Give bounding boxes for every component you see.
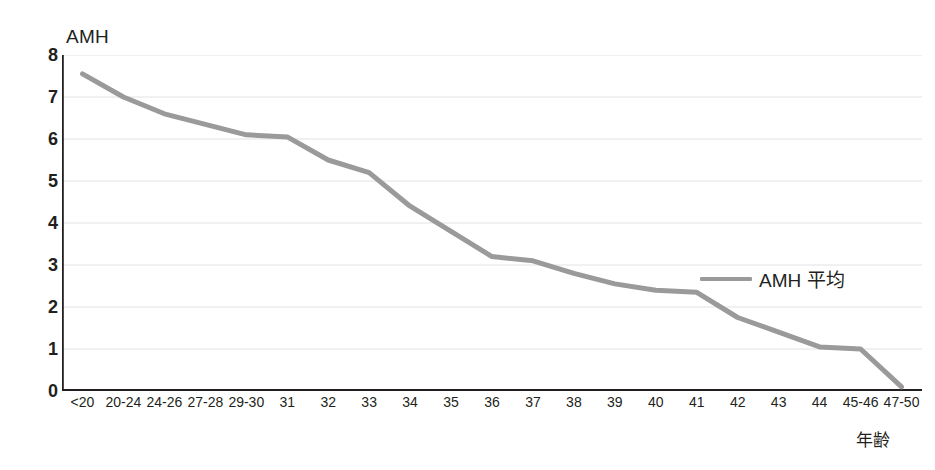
x-tick-label: 44 bbox=[812, 394, 828, 410]
y-tick-label: 7 bbox=[24, 87, 58, 108]
legend-line-swatch bbox=[700, 277, 752, 281]
x-tick-label: 40 bbox=[648, 394, 664, 410]
y-tick-label: 6 bbox=[24, 129, 58, 150]
x-tick-label: 38 bbox=[566, 394, 582, 410]
x-tick-label: 45-46 bbox=[843, 394, 879, 410]
x-tick-label: 32 bbox=[320, 394, 336, 410]
y-axis-tick-labels: 012345678 bbox=[18, 0, 58, 470]
x-tick-label: 42 bbox=[730, 394, 746, 410]
x-tick-label: <20 bbox=[71, 394, 95, 410]
series-line-0 bbox=[82, 74, 901, 387]
x-tick-label: 37 bbox=[525, 394, 541, 410]
x-tick-label: 34 bbox=[402, 394, 418, 410]
plot-area bbox=[62, 55, 922, 391]
y-tick-label: 8 bbox=[24, 45, 58, 66]
x-tick-label: 43 bbox=[771, 394, 787, 410]
y-tick-label: 3 bbox=[24, 255, 58, 276]
chart-svg bbox=[62, 55, 922, 391]
x-axis-tick-labels: <2020-2424-2627-2829-3031323334353637383… bbox=[62, 392, 922, 418]
x-tick-label: 31 bbox=[279, 394, 295, 410]
y-tick-label: 2 bbox=[24, 297, 58, 318]
chart-legend: AMH 平均 bbox=[700, 265, 845, 292]
x-tick-label: 36 bbox=[484, 394, 500, 410]
x-tick-label: 24-26 bbox=[146, 394, 182, 410]
x-tick-label: 27-28 bbox=[187, 394, 223, 410]
y-tick-label: 4 bbox=[24, 213, 58, 234]
y-tick-label: 5 bbox=[24, 171, 58, 192]
x-tick-label: 39 bbox=[607, 394, 623, 410]
y-tick-label: 0 bbox=[24, 381, 58, 402]
x-tick-label: 41 bbox=[689, 394, 705, 410]
legend-label-amh-average: AMH 平均 bbox=[759, 265, 845, 292]
amh-age-line-chart: AMH 012345678 <2020-2424-2627-2829-30313… bbox=[0, 0, 935, 470]
x-axis-title: 年齢 bbox=[856, 426, 890, 451]
x-tick-label: 33 bbox=[361, 394, 377, 410]
x-tick-label: 20-24 bbox=[106, 394, 142, 410]
x-tick-label: 35 bbox=[443, 394, 459, 410]
x-tick-label: 29-30 bbox=[228, 394, 264, 410]
y-tick-label: 1 bbox=[24, 339, 58, 360]
y-axis-title: AMH bbox=[66, 26, 109, 48]
x-tick-label: 47-50 bbox=[884, 394, 920, 410]
